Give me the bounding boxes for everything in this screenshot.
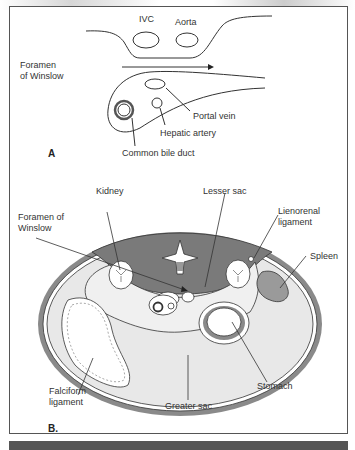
label-falciform-line2: ligament <box>49 397 83 407</box>
portal-vein-shape <box>145 79 165 89</box>
label-spleen: Spleen <box>310 251 338 261</box>
label-foramen-b-line2: Winslow <box>18 223 52 233</box>
panel-b-label: B. <box>48 423 58 434</box>
label-portal-vein: Portal vein <box>193 111 236 121</box>
aorta-b-shape <box>182 292 194 302</box>
hepatic-artery-leader <box>160 108 165 125</box>
label-ivc: IVC <box>139 14 154 24</box>
ivc-shape <box>133 32 159 48</box>
hepatoduodenal-ligament-outline <box>108 71 265 131</box>
portal-vein-leader <box>166 88 190 111</box>
hepatic-artery-b <box>168 303 174 309</box>
label-lienorenal-line2: ligament <box>278 217 312 227</box>
hepatic-artery-shape <box>152 98 162 108</box>
label-lienorenal-line1: Lienorenal <box>278 206 320 216</box>
bile-duct-leader <box>132 118 135 146</box>
label-foramen-b-line1: Foramen of <box>18 212 64 222</box>
label-hepatic-artery: Hepatic artery <box>160 128 216 138</box>
panel-a-label: A <box>48 148 55 159</box>
label-lesser-sac: Lesser sac <box>203 186 247 196</box>
bottom-rule <box>9 441 348 450</box>
label-common-bile-duct: Common bile duct <box>122 148 195 158</box>
label-foramen-a-line1: Foramen <box>20 60 56 70</box>
stomach-lumen <box>207 308 241 336</box>
vertebra-canal <box>177 262 183 271</box>
right-kidney-shape <box>226 260 250 288</box>
label-stomach: Stomach <box>257 381 293 391</box>
panel-a-drawing <box>86 16 272 146</box>
lienorenal-vessels <box>249 257 254 262</box>
label-falciform-line1: Falciform <box>49 386 86 396</box>
label-kidney: Kidney <box>96 186 124 196</box>
label-foramen-a-line2: of Winslow <box>20 71 64 81</box>
bile-duct-inner <box>118 104 130 116</box>
foramen-arrowhead <box>208 64 214 70</box>
aorta-shape <box>176 33 198 47</box>
label-aorta: Aorta <box>175 17 197 27</box>
bile-duct-b <box>154 303 163 312</box>
label-greater-sac: Greater sac <box>165 401 212 411</box>
